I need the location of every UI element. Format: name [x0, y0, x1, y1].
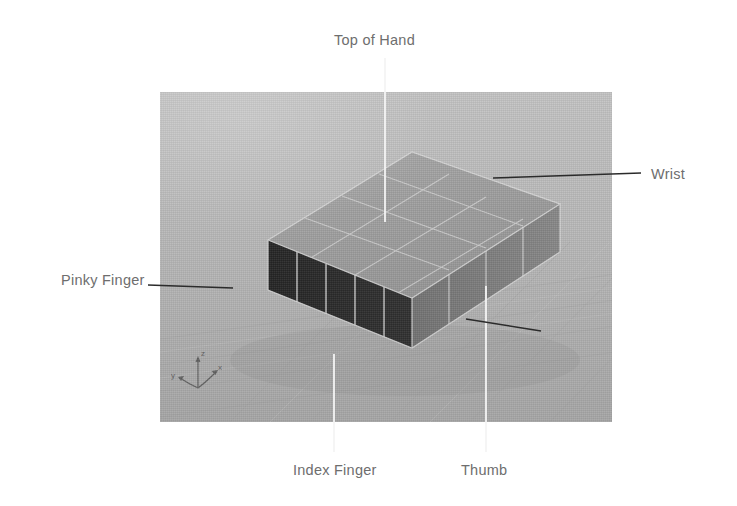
- label-thumb: Thumb: [461, 462, 507, 478]
- mesh-render: z x y: [160, 92, 612, 422]
- screenshot-root: z x y Top of Hand Wrist Pinky Finger Ind…: [0, 0, 737, 506]
- viewport-3d[interactable]: z x y: [160, 92, 612, 422]
- label-pinky-finger: Pinky Finger: [61, 272, 145, 288]
- axis-z-label: z: [201, 349, 205, 358]
- axis-y-label: y: [171, 371, 175, 380]
- label-top-of-hand: Top of Hand: [334, 32, 415, 48]
- label-wrist: Wrist: [651, 166, 685, 182]
- label-index-finger: Index Finger: [293, 462, 377, 478]
- axis-x-label: x: [218, 363, 222, 372]
